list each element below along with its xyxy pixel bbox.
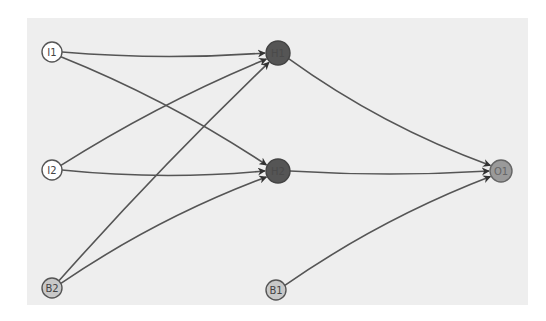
node-h2-label: H2 [271,166,285,177]
node-h1[interactable]: H1 [266,41,290,65]
node-b2-label: B2 [45,283,58,294]
network-diagram-canvas: I1I2B2H1H2O1B1 [0,0,546,321]
node-h2[interactable]: H2 [266,159,290,183]
network-graph: I1I2B2H1H2O1B1 [0,0,546,321]
edge-i2-to-h1 [61,59,267,165]
node-i1[interactable]: I1 [42,42,62,62]
node-i1-label: I1 [47,47,56,58]
node-b1-label: B1 [269,285,282,296]
node-i2[interactable]: I2 [42,160,62,180]
edge-b2-to-h1 [59,62,269,280]
node-h1-label: H1 [271,48,285,59]
edge-b2-to-h2 [61,177,267,283]
nodes-layer: I1I2B2H1H2O1B1 [42,41,512,300]
node-i2-label: I2 [47,165,56,176]
edge-i2-to-h2 [62,170,265,175]
edge-h2-to-o1 [290,171,489,174]
edge-i1-to-h1 [62,52,265,56]
node-o1-label: O1 [494,166,508,177]
node-b1[interactable]: B1 [266,280,286,300]
edge-h1-to-o1 [289,59,491,166]
edge-b1-to-o1 [285,177,491,286]
node-b2[interactable]: B2 [42,278,62,298]
node-o1[interactable]: O1 [490,160,512,182]
